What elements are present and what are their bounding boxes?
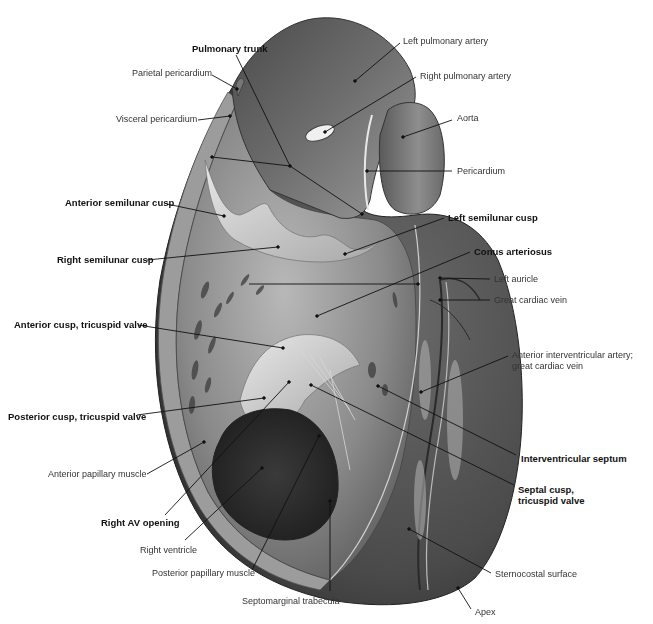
leader-dot-left-auricle	[439, 277, 442, 280]
leader-dot-pulmonary-trunk	[361, 213, 364, 216]
label-posterior-cusp-tricuspid-valve: Posterior cusp, tricuspid valve	[8, 411, 146, 422]
label-right-av-opening: Right AV opening	[101, 517, 180, 528]
label-visceral-pericardium: Visceral pericardium	[116, 114, 197, 125]
leader-dot-anterior-papillary-muscle	[203, 441, 206, 444]
label-right-ventricle: Right ventricle	[140, 545, 197, 556]
label-right-semilunar-cusp: Right semilunar cusp	[57, 254, 154, 265]
leader-line-apex	[458, 588, 471, 609]
leader-dot-septomarginal-trabecula	[329, 500, 332, 503]
label-left-auricle: Left auricle	[494, 274, 538, 285]
label-anterior-papillary-muscle: Anterior papillary muscle	[48, 469, 147, 480]
leader-dot-great-cardiac-vein	[439, 299, 442, 302]
leader-dot-interventricular-septum	[377, 385, 380, 388]
leader-dot-conus-arteriosus	[316, 315, 319, 318]
leader-dot-posterior-papillary-muscle	[318, 435, 321, 438]
leader-dot-parietal-pericardium	[236, 88, 239, 91]
leader-dot-aorta	[402, 136, 405, 139]
leader-dot-apex	[457, 587, 460, 590]
leader-dot-septal-cusp-tricuspid-valve	[310, 384, 313, 387]
label-parietal-pericardium: Parietal pericardium	[132, 68, 212, 79]
leader-dot-right-av-opening	[288, 381, 291, 384]
leader-dot-left-pulmonary-artery	[354, 80, 357, 83]
label-conus-arteriosus: Conus arteriosus	[474, 246, 552, 257]
leader-dot-posterior-cusp-tricuspid-valve	[263, 397, 266, 400]
label-pericardium: Pericardium	[457, 166, 505, 177]
label-pulmonary-trunk: Pulmonary trunk	[192, 43, 268, 54]
leader-dot-right-pulmonary-artery	[324, 131, 327, 134]
leader-dot-anterior-semilunar-cusp	[223, 215, 226, 218]
label-left-semilunar-cusp: Left semilunar cusp	[448, 212, 538, 223]
label-interventricular-septum: Interventricular septum	[521, 453, 627, 464]
label-right-pulmonary-artery: Right pulmonary artery	[420, 71, 511, 82]
leader-dot-left-semilunar-cusp	[344, 253, 347, 256]
leader-dot-pericardium	[366, 170, 369, 173]
leader-dot-right-ventricle	[261, 467, 264, 470]
label-septal-cusp-tricuspid-valve: Septal cusp, tricuspid valve	[518, 484, 585, 506]
heart-illustration	[0, 0, 653, 624]
leader-dot-right-semilunar-cusp	[277, 246, 280, 249]
label-septomarginal-trabecula: Septomarginal trabecula	[242, 596, 340, 607]
leader-dot-sternocostal-surface	[408, 528, 411, 531]
label-sternocostal-surface: Sternocostal surface	[495, 569, 577, 580]
label-anterior-interventricular-artery: Anterior interventricular artery; great …	[512, 350, 633, 372]
label-posterior-papillary-muscle: Posterior papillary muscle	[152, 568, 255, 579]
label-apex: Apex	[475, 607, 496, 618]
leader-line-parietal-pericardium	[212, 75, 237, 89]
label-aorta: Aorta	[457, 113, 479, 124]
leader-dot-pulmonary-trunk	[211, 156, 214, 159]
leader-dot-visceral-pericardium	[229, 115, 232, 118]
label-anterior-semilunar-cusp: Anterior semilunar cusp	[65, 197, 174, 208]
leader-dot-right-semilunar-line-extra	[417, 283, 420, 286]
aorta-shape	[379, 103, 444, 215]
label-anterior-cusp-tricuspid-valve: Anterior cusp, tricuspid valve	[14, 319, 148, 330]
label-left-pulmonary-artery: Left pulmonary artery	[403, 36, 488, 47]
heart-anatomy-figure: Pulmonary trunkParietal pericardiumVisce…	[0, 0, 653, 624]
leader-dot-anterior-cusp-tricuspid-valve	[282, 347, 285, 350]
leader-dot-anterior-interventricular-artery	[420, 391, 423, 394]
label-great-cardiac-vein: Great cardiac vein	[494, 295, 567, 306]
